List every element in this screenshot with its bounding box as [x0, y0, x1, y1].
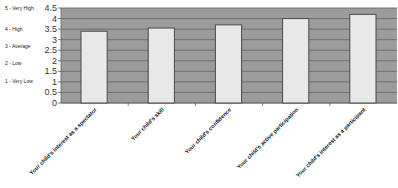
x-tick-label: Your child's active participation [236, 106, 300, 170]
x-tick-label: Your child's confidence [184, 106, 232, 154]
bar-chart: 5 - Very High4 - High3 - Average2 - Low1… [0, 0, 398, 188]
y-tick-label: 2.5 [44, 45, 57, 55]
x-axis-labels: Your child's interest as a spectatorYour… [28, 103, 366, 178]
rating-scale-label: 1 - Very Low [5, 78, 33, 84]
rating-scale-label: 3 - Average [5, 43, 31, 49]
rating-scale-label: 2 - Low [5, 60, 22, 66]
y-tick-label: 1 [52, 77, 57, 87]
bar [81, 31, 107, 103]
bar [350, 14, 376, 103]
x-tick-label: Your child's interest as a participant [295, 106, 367, 178]
y-tick-label: 4.5 [44, 3, 57, 13]
y-tick-label: 3.5 [44, 24, 57, 34]
bar [148, 28, 174, 103]
y-tick-label: 3 [52, 35, 57, 45]
bar [283, 19, 309, 103]
y-tick-label: 1.5 [44, 66, 57, 76]
y-axis-ticks: 00.511.522.533.544.5 [44, 3, 61, 108]
y-tick-label: 0.5 [44, 87, 57, 97]
bar [215, 25, 241, 103]
y-tick-label: 4 [52, 14, 57, 24]
x-tick-label: Your child's skill [130, 106, 166, 142]
x-tick-label: Your child's interest as a spectator [28, 106, 98, 176]
y-tick-label: 2 [52, 56, 57, 66]
rating-scale-label: 4 - High [5, 26, 23, 32]
rating-scale-labels: 5 - Very High4 - High3 - Average2 - Low1… [5, 5, 34, 84]
rating-scale-label: 5 - Very High [5, 5, 34, 11]
y-tick-label: 0 [52, 98, 57, 108]
